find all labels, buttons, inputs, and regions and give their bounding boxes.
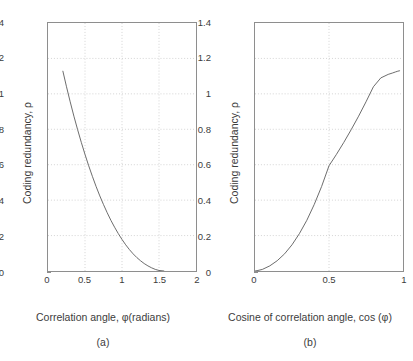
curve-a	[63, 71, 164, 271]
y-tick-label-a-1: 0.2	[0, 232, 4, 242]
y-tick-label-a-4: 0.8	[0, 125, 4, 135]
x-tick-label-a-0: 0	[32, 275, 62, 285]
grid-lines-a	[48, 23, 196, 271]
plot-area-a	[47, 22, 197, 272]
subplot-label-b: (b)	[207, 336, 413, 348]
x-axis-label-b: Cosine of correlation angle, cos (φ)	[207, 311, 413, 323]
x-tick-label-a-2: 1	[107, 275, 137, 285]
y-tick-mark-a-0	[47, 272, 51, 273]
y-tick-label-b-1: 0.2	[177, 232, 211, 242]
x-tick-label-a-1: 0.5	[70, 275, 100, 285]
y-tick-label-b-2: 0.4	[177, 196, 211, 206]
y-tick-label-b-4: 0.8	[177, 125, 211, 135]
x-tick-label-b-1: 0.5	[314, 275, 344, 285]
y-tick-label-a-0: 0	[0, 268, 4, 278]
y-tick-label-a-5: 1	[0, 89, 4, 99]
y-tick-label-a-2: 0.4	[0, 196, 4, 206]
x-tick-label-b-0: 0	[239, 275, 269, 285]
x-axis-label-a: Correlation angle, φ(radians)	[0, 311, 206, 323]
subplot-label-a: (a)	[0, 336, 206, 348]
y-axis-label-a: Coding redundancy, ρ	[21, 73, 33, 233]
y-tick-label-b-0: 0	[177, 268, 211, 278]
y-tick-label-b-3: 0.6	[177, 160, 211, 170]
curve-b	[255, 71, 400, 271]
subplot-b: 0 0.2 0.4 0.6 0.8 1 1.2 1.4 0 0.5 1	[207, 0, 413, 361]
x-tick-label-b-2: 1	[389, 275, 413, 285]
plot-svg-b	[255, 23, 403, 271]
figure-coding-redundancy: 0 0.2 0.4 0.6 0.8 1 1.2 1.4 0 0.5 1 1.5	[0, 0, 413, 361]
y-tick-label-a-6: 1.2	[0, 53, 4, 63]
y-tick-label-a-7: 1.4	[0, 18, 4, 28]
y-tick-label-b-6: 1.2	[177, 53, 211, 63]
grid-lines-b	[255, 23, 403, 271]
plot-svg-a	[48, 23, 196, 271]
y-tick-label-a-3: 0.6	[0, 160, 4, 170]
y-axis-label-b: Coding redundancy, ρ	[228, 73, 240, 233]
x-tick-label-a-3: 1.5	[145, 275, 175, 285]
y-tick-mark-b-0	[254, 272, 258, 273]
plot-area-b	[254, 22, 404, 272]
y-tick-label-b-7: 1.4	[177, 18, 211, 28]
y-tick-label-b-5: 1	[177, 89, 211, 99]
subplot-a: 0 0.2 0.4 0.6 0.8 1 1.2 1.4 0 0.5 1 1.5	[0, 0, 206, 361]
